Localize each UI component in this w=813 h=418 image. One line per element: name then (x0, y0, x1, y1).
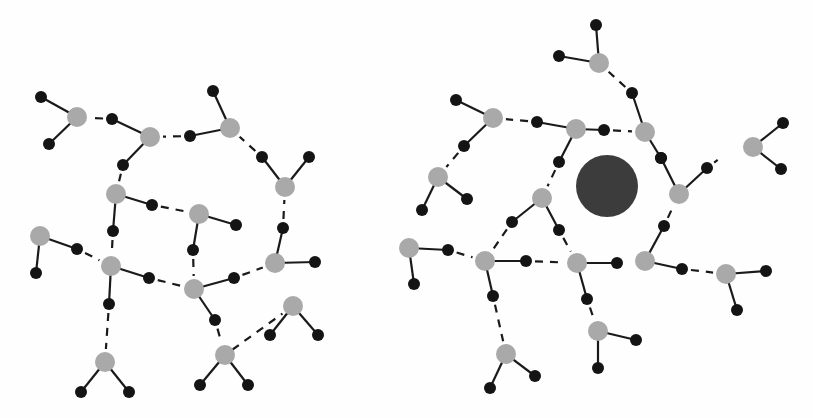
hydrogen-atom (626, 87, 638, 99)
hydrogen-atom (531, 116, 543, 128)
hydrogen-atom (242, 379, 254, 391)
oxygen-atom (743, 137, 763, 157)
oxygen-atom (589, 53, 609, 73)
oxygen-atom (140, 127, 160, 147)
hydrogen-atom (775, 163, 787, 175)
hydrogen-atom (581, 293, 593, 305)
hydrogen-bond-dashed (613, 130, 632, 131)
hydrogen-atom (553, 50, 565, 62)
oxygen-atom (30, 226, 50, 246)
hydrogen-bond-dashed (242, 267, 262, 274)
solute-layer (576, 155, 638, 217)
hydrogen-atom (71, 243, 83, 255)
hydrogen-atom (553, 156, 565, 168)
hydrogen-bond-dashed (90, 118, 103, 119)
hydrogen-atom (416, 204, 428, 216)
hydrogen-atom (590, 19, 602, 31)
hydrogen-bond-dashed (161, 207, 186, 212)
oxygen-atom (220, 118, 240, 138)
diagram-canvas (0, 0, 813, 418)
hydrogen-atom (655, 152, 667, 164)
oxygen-atom (215, 345, 235, 365)
oxygen-atom (716, 264, 736, 284)
hydrogen-bond-dashed (691, 270, 713, 273)
hydrogen-atom (184, 130, 196, 142)
atoms-layer (30, 19, 789, 398)
hydrogen-bond-dashed (563, 238, 570, 252)
hydrogen-bond-dashed (668, 206, 674, 218)
hydrogen-atom (487, 290, 499, 302)
hydrogen-bond-dashed (506, 119, 528, 121)
oxygen-atom (67, 107, 87, 127)
hydrogen-atom (529, 370, 541, 382)
hydrogen-atom (277, 222, 289, 234)
hydrogen-bond-dashed (714, 160, 718, 163)
oxygen-atom (483, 108, 503, 128)
hydrogen-atom (731, 304, 743, 316)
hydrogen-bond-dashed (457, 253, 473, 258)
hydrogen-atom (611, 257, 623, 269)
hydrogen-bond-dashed (85, 253, 99, 260)
hydrogen-atom (777, 117, 789, 129)
hydrogen-bond-dashed (446, 153, 458, 167)
hydrogen-atom (458, 140, 470, 152)
hydrogen-atom (484, 382, 496, 394)
hydrogen-atom (658, 220, 670, 232)
oxygen-atom (669, 184, 689, 204)
oxygen-atom (399, 238, 419, 258)
hydrogen-atom (187, 244, 199, 256)
hydrogen-atom (461, 193, 473, 205)
oxygen-atom (106, 184, 126, 204)
hydrogen-atom (123, 386, 135, 398)
hydrogen-bond-dashed (283, 200, 284, 219)
hydrogen-atom (598, 124, 610, 136)
hydrogen-atom (450, 94, 462, 106)
hydrogen-atom (506, 216, 518, 228)
hydrogen-bond-dashed (217, 329, 221, 343)
oxygen-atom (265, 253, 285, 273)
oxygen-atom (189, 204, 209, 224)
hydrogen-atom (303, 151, 315, 163)
oxygen-atom (635, 122, 655, 142)
hydrogen-atom (146, 199, 158, 211)
hydrogen-atom (312, 329, 324, 341)
hydrogen-atom (408, 278, 420, 290)
oxygen-atom (475, 251, 495, 271)
hydrogen-bond-dashed (492, 229, 506, 250)
hydrogen-atom (230, 219, 242, 231)
oxygen-atom (588, 321, 608, 341)
hydrogen-atom (107, 225, 119, 237)
hydrogen-atom (701, 162, 713, 174)
oxygen-atom (283, 296, 303, 316)
hydrogen-atom (194, 379, 206, 391)
oxygen-atom (275, 177, 295, 197)
hydrogen-bond-dashed (590, 308, 594, 319)
hydrogen-atom (103, 298, 115, 310)
hydrogen-atom (676, 263, 688, 275)
oxygen-atom (496, 344, 516, 364)
oxygen-atom (184, 279, 204, 299)
hydrogen-bond-dashed (535, 261, 564, 262)
hydrogen-atom (106, 113, 118, 125)
hydrogen-atom (520, 255, 532, 267)
oxygen-atom (567, 253, 587, 273)
oxygen-atom (635, 251, 655, 271)
hydrogen-atom (117, 159, 129, 171)
hydrogen-atom (143, 272, 155, 284)
oxygen-atom (95, 352, 115, 372)
oxygen-atom (566, 119, 586, 139)
hydrogen-bond-dashed (548, 170, 556, 186)
oxygen-atom (532, 188, 552, 208)
solute-sphere (576, 155, 638, 217)
hydrogen-bond-dashed (609, 72, 626, 87)
hydrogen-atom (256, 151, 268, 163)
hydrogen-atom (209, 314, 221, 326)
hydrogen-atom (309, 256, 321, 268)
hydrogen-atom (228, 272, 240, 284)
hydrogen-atom (43, 138, 55, 150)
hydrogen-bond-dashed (112, 240, 113, 253)
hydrogen-atom (30, 267, 42, 279)
hydrogen-atom (630, 334, 642, 346)
hydrogen-atom (592, 362, 604, 374)
hydrogen-atom (75, 386, 87, 398)
